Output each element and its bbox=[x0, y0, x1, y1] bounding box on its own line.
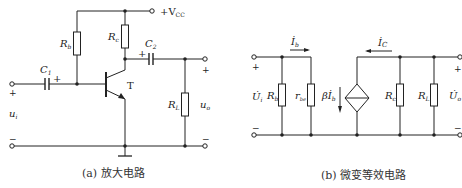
input-minus-b: − bbox=[252, 123, 260, 133]
input-minus: − bbox=[9, 134, 17, 144]
output-plus: + bbox=[202, 65, 210, 75]
rl-label-b: RL bbox=[417, 90, 430, 102]
output-terminal-plus bbox=[203, 57, 207, 61]
input-plus-b: + bbox=[252, 62, 260, 72]
output-terminal-minus-b bbox=[458, 133, 462, 137]
dependent-source-label: βİb bbox=[321, 90, 336, 102]
output-minus-b: − bbox=[454, 123, 462, 133]
input-plus: + bbox=[9, 88, 17, 98]
ic-label: İC bbox=[377, 37, 388, 49]
resistor-rb bbox=[74, 32, 81, 55]
resistor-rc bbox=[122, 25, 129, 48]
source-direction-arrow-icon bbox=[338, 106, 342, 113]
output-terminal-minus bbox=[203, 144, 207, 148]
rl-label: RL bbox=[167, 99, 180, 111]
current-ic-arrow-icon bbox=[365, 49, 371, 53]
rb-label-b: Rb bbox=[266, 90, 279, 102]
input-label: ui bbox=[9, 108, 17, 120]
input-label-b: U̇i bbox=[252, 91, 262, 103]
resistor-rc-b bbox=[397, 84, 404, 106]
output-plus-b: + bbox=[454, 64, 462, 74]
resistor-rbe bbox=[308, 84, 315, 106]
input-terminal-plus-b bbox=[252, 55, 256, 59]
input-terminal-plus bbox=[10, 82, 14, 86]
rc-label-b: Rc bbox=[384, 90, 397, 102]
c2-polarity: + bbox=[138, 48, 146, 59]
output-minus: − bbox=[202, 134, 210, 144]
resistor-rb-b bbox=[279, 84, 286, 106]
ib-label: İb bbox=[290, 36, 299, 48]
caption-b: (b) 微变等效电路 bbox=[321, 168, 406, 182]
input-terminal-minus bbox=[10, 144, 14, 148]
vcc-label: +VCC bbox=[160, 6, 185, 18]
small-signal-equivalent-circuit bbox=[252, 48, 462, 137]
output-label-b: U̇o bbox=[449, 90, 461, 102]
input-terminal-minus-b bbox=[252, 133, 256, 137]
rb-label: Rb bbox=[59, 38, 72, 50]
vcc-terminal bbox=[150, 9, 154, 13]
circuit-diagram: +VCC Rb Rc C1 + C2 + T RL + ui − + uo − … bbox=[0, 0, 462, 188]
rbe-label: rbe bbox=[295, 90, 306, 102]
output-label: uo bbox=[200, 99, 210, 111]
output-terminal-plus-b bbox=[458, 55, 462, 59]
c1-label: C1 bbox=[40, 64, 51, 76]
caption-a: (a) 放大电路 bbox=[82, 166, 145, 180]
resistor-rl bbox=[182, 93, 189, 116]
c1-polarity: + bbox=[53, 73, 61, 84]
rc-label: Rc bbox=[107, 31, 120, 43]
resistor-rl-b bbox=[431, 84, 438, 106]
c2-label: C2 bbox=[145, 38, 157, 50]
current-ib-arrow-icon bbox=[304, 48, 310, 52]
transistor-label: T bbox=[127, 80, 134, 91]
